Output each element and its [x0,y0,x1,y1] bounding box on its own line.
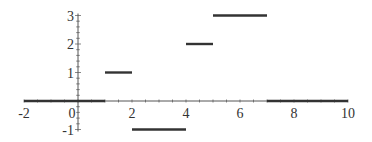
x-tick-label: 0 [69,106,76,121]
x-tick-label: -2 [18,106,30,121]
y-tick-label: -1 [62,123,74,138]
x-tick-label: 6 [237,106,244,121]
x-tick-label: 8 [291,106,298,121]
y-tick-label: 1 [67,66,74,81]
step-function-chart: -20246810 -1123 [0,0,372,142]
x-tick-label: 2 [129,106,136,121]
y-tick-label: 2 [67,37,74,52]
x-tick-labels: -20246810 [18,106,355,121]
y-tick-label: 3 [67,9,74,24]
x-tick-label: 10 [341,106,355,121]
x-tick-label: 4 [183,106,190,121]
